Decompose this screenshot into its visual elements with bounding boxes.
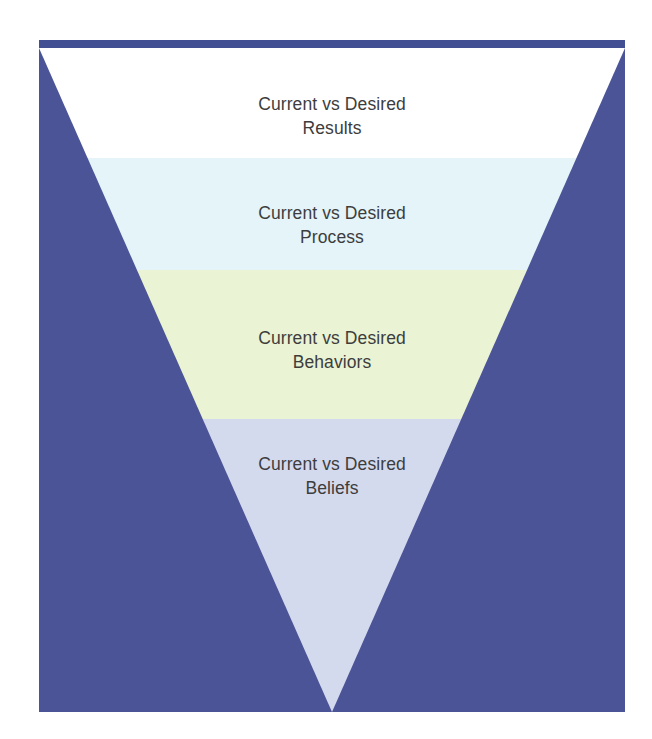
funnel-band-beliefs (39, 419, 625, 712)
funnel-band-results (39, 48, 625, 158)
funnel-band-process (39, 158, 625, 270)
panel-top-bar (39, 40, 625, 48)
pyramid-panel: Current vs DesiredResultsCurrent vs Desi… (39, 40, 625, 712)
funnel-band-behaviors (39, 270, 625, 419)
diagram-canvas: Current vs DesiredResultsCurrent vs Desi… (0, 0, 652, 739)
inverted-pyramid-funnel (39, 48, 625, 712)
